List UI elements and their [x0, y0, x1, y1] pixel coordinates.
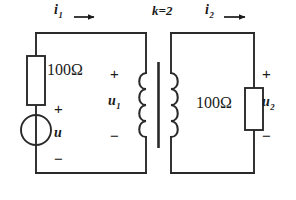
primary-loop-wires — [36, 33, 146, 173]
label-resistor-primary: 100Ω — [47, 62, 83, 78]
label-current-primary: i1 — [54, 3, 63, 19]
resistor-primary-symbol — [27, 56, 45, 105]
label-coupling-coefficient: k=2 — [152, 4, 172, 17]
polarity-source-minus: − — [54, 151, 63, 166]
label-voltage-primary: u1 — [108, 94, 121, 110]
label-current-secondary: i2 — [205, 3, 214, 19]
label-voltage-secondary-subscript: 2 — [270, 102, 274, 112]
label-source-voltage: u — [54, 126, 62, 140]
transformer-primary-coil — [139, 73, 146, 137]
voltage-source-symbol — [21, 115, 51, 145]
polarity-source-plus: + — [54, 101, 63, 116]
resistor-secondary-symbol — [245, 88, 263, 130]
polarity-u2-minus: − — [262, 128, 271, 143]
schematic-drawing — [0, 0, 296, 200]
circuit-diagram-canvas: i1 i2 k=2 100Ω 100Ω u u1 u2 + − + − + − — [0, 0, 296, 200]
transformer-secondary-coil — [171, 73, 178, 137]
polarity-u1-minus: − — [110, 128, 119, 143]
label-current-primary-subscript: 1 — [58, 10, 62, 20]
polarity-u1-plus: + — [110, 66, 119, 81]
label-voltage-primary-subscript: 1 — [116, 101, 120, 111]
polarity-u2-plus: + — [262, 66, 271, 81]
label-resistor-secondary: 100Ω — [196, 95, 232, 111]
label-voltage-secondary: u2 — [262, 95, 275, 111]
label-voltage-secondary-symbol: u — [262, 94, 270, 109]
label-current-secondary-subscript: 2 — [209, 10, 213, 20]
label-voltage-primary-symbol: u — [108, 93, 116, 108]
